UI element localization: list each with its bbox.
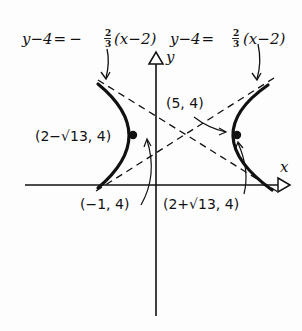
left-vertex-arrow (141, 139, 151, 205)
svg-text:y−4=: y−4= (169, 30, 214, 48)
left-focus-label: (2−√13, 4) (35, 128, 111, 144)
eq-left-frac-num: 2 (105, 28, 111, 38)
x-axis-arrow-icon (278, 178, 290, 192)
svg-text:y−4=−: y−4=− (21, 30, 82, 48)
y-axis-label: y (165, 48, 175, 66)
y-axis-arrow-icon (149, 52, 163, 64)
left-focus-dot (129, 131, 137, 139)
eq-right-frac-num: 2 (233, 28, 239, 38)
eq-left-frac-den: 3 (105, 39, 111, 49)
x-axis-label: x (280, 158, 289, 176)
right-focus-label: (2+√13, 4) (163, 196, 239, 212)
right-vertex-label: (5, 4) (166, 95, 204, 111)
eq-right-lhs: y−4 (169, 30, 201, 48)
eq-right-equals: = (202, 30, 215, 48)
eq-left-sign: − (69, 30, 82, 48)
right-asymptote-equation: y−4= 2 3 (x−2) (169, 28, 285, 49)
y-axis (149, 52, 163, 316)
diagram-svg: y x (0, 0, 302, 331)
eq-left-lhs: y−4 (21, 30, 53, 48)
right-equation-arrow (252, 44, 261, 80)
eq-left-equals: = (54, 30, 67, 48)
right-focus-dot (233, 131, 241, 139)
eq-left-rhs: (x−2) (114, 30, 156, 48)
left-asymptote-equation: y−4=− 2 3 (x−2) (21, 28, 156, 49)
eq-right-rhs: (x−2) (243, 30, 285, 48)
left-equation-arrow (101, 49, 110, 79)
left-vertex-label: (−1, 4) (80, 196, 129, 212)
eq-right-frac-den: 3 (233, 39, 239, 49)
x-axis (25, 178, 290, 192)
hyperbola-diagram: y x (0, 0, 302, 331)
